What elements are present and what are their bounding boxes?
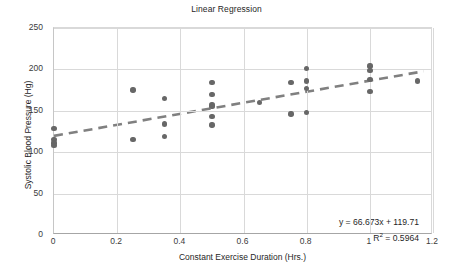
data-point [130, 87, 135, 92]
data-point [51, 143, 56, 148]
x-tick-label: 1 [366, 236, 371, 246]
y-tick-label: 100 [1, 146, 43, 156]
x-axis-tick-labels: 00.20.40.60.811.2 [0, 236, 453, 252]
y-tick-label: 150 [1, 105, 43, 115]
gridline-horizontal [54, 152, 431, 153]
data-point [415, 78, 420, 83]
x-tick-label: 0.4 [173, 236, 185, 246]
data-point [304, 78, 309, 83]
y-tick-label: 50 [1, 188, 43, 198]
data-point [367, 77, 372, 82]
y-tick-label: 250 [1, 22, 43, 32]
x-tick-label: 1.2 [426, 236, 438, 246]
data-point [209, 114, 214, 119]
gridline-vertical [180, 28, 181, 233]
y-tick-label: 200 [1, 63, 43, 73]
data-point [209, 104, 214, 109]
data-point [162, 121, 167, 126]
gridline-horizontal [54, 28, 431, 29]
x-tick-label: 0.8 [300, 236, 312, 246]
data-point [209, 80, 214, 85]
gridline-vertical [433, 28, 434, 233]
x-tick-label: 0.2 [110, 236, 122, 246]
gridline-vertical [370, 28, 371, 233]
data-point [288, 80, 293, 85]
chart-title: Linear Regression [0, 4, 453, 14]
data-point [209, 92, 214, 97]
data-point [367, 89, 372, 94]
gridline-horizontal [54, 194, 431, 195]
data-point [288, 111, 293, 116]
gridline-vertical [244, 28, 245, 233]
data-point [367, 68, 372, 73]
gridline-horizontal [54, 69, 431, 70]
gridline-horizontal [54, 111, 431, 112]
x-tick-label: 0.6 [237, 236, 249, 246]
gridline-vertical [117, 28, 118, 233]
data-point [209, 122, 214, 127]
data-point [51, 126, 56, 131]
regression-equation: y = 66.673x + 119.71 [339, 216, 419, 229]
gridline-vertical [307, 28, 308, 233]
x-axis-title: Constant Exercise Duration (Hrs.) [53, 252, 432, 262]
linear-regression-chart: Linear Regression Systolic Blood Pressur… [0, 0, 453, 279]
plot-area: y = 66.673x + 119.71 R2 = 0.5964 [53, 27, 432, 234]
x-tick-label: 0 [51, 236, 56, 246]
